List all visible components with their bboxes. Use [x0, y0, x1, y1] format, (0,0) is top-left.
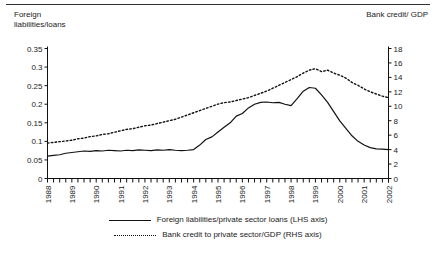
chart-legend: Foreign liabilities/private sector loans… [0, 212, 436, 242]
legend-label: Bank credit to private sector/GDP (RHS a… [162, 230, 321, 239]
svg-text:8: 8 [394, 117, 399, 126]
svg-text:1997: 1997 [263, 185, 272, 203]
chart-figure: Foreign liabilities/loans Bank credit/ G… [0, 0, 436, 253]
svg-text:0.05: 0.05 [27, 156, 43, 165]
svg-text:0: 0 [38, 175, 43, 184]
svg-text:0: 0 [394, 175, 399, 184]
svg-text:1999: 1999 [311, 185, 320, 203]
legend-swatch-dotted-icon [114, 230, 156, 240]
svg-text:0.15: 0.15 [27, 119, 43, 128]
svg-text:10: 10 [394, 102, 403, 111]
left-axis: 00.050.10.150.20.250.30.35 [27, 45, 48, 184]
legend-item: Bank credit to private sector/GDP (RHS a… [0, 227, 436, 242]
x-axis: 1988198919901991199219931994199519961997… [44, 179, 394, 204]
svg-text:2: 2 [394, 160, 399, 169]
svg-text:14: 14 [394, 73, 403, 82]
legend-label: Foreign liabilities/private sector loans… [157, 215, 328, 224]
svg-text:6: 6 [394, 131, 399, 140]
svg-text:1991: 1991 [117, 185, 126, 203]
series-lines [48, 69, 389, 156]
svg-text:1990: 1990 [92, 185, 101, 203]
svg-text:4: 4 [394, 146, 399, 155]
svg-text:18: 18 [394, 45, 403, 54]
right-axis: 024681012141618 [389, 45, 403, 184]
svg-text:1995: 1995 [214, 185, 223, 203]
svg-text:2000: 2000 [336, 185, 345, 203]
svg-text:0.2: 0.2 [31, 100, 43, 109]
svg-text:0.25: 0.25 [27, 82, 43, 91]
legend-item: Foreign liabilities/private sector loans… [0, 212, 436, 227]
legend-swatch-solid-icon [109, 215, 151, 225]
svg-text:1989: 1989 [68, 185, 77, 203]
svg-text:12: 12 [394, 88, 403, 97]
svg-text:1988: 1988 [44, 185, 53, 203]
svg-text:2002: 2002 [385, 185, 394, 203]
svg-text:1994: 1994 [190, 185, 199, 203]
svg-text:0.1: 0.1 [31, 137, 43, 146]
svg-text:1998: 1998 [287, 185, 296, 203]
svg-text:0.3: 0.3 [31, 63, 43, 72]
svg-text:1993: 1993 [165, 185, 174, 203]
svg-text:1992: 1992 [141, 185, 150, 203]
svg-text:16: 16 [394, 59, 403, 68]
line-chart-plot: 00.050.10.150.20.250.30.35 0246810121416… [0, 0, 436, 212]
svg-text:0.35: 0.35 [27, 45, 43, 54]
svg-text:2001: 2001 [360, 185, 369, 203]
svg-text:1996: 1996 [238, 185, 247, 203]
